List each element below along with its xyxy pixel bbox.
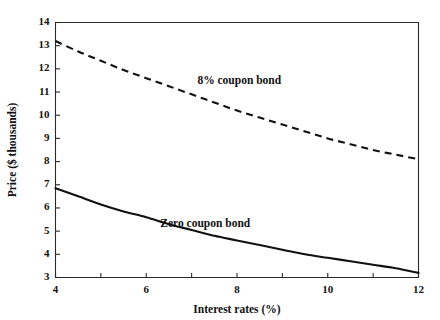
x-axis-title: Interest rates (%) <box>193 303 280 316</box>
series-label-8-coupon-bond: 8% coupon bond <box>197 74 281 87</box>
y-tick-label: 12 <box>39 61 51 73</box>
y-axis-title: Price ($ thousands) <box>6 103 19 198</box>
y-tick-label: 13 <box>39 38 51 50</box>
y-tick-label: 9 <box>44 131 50 143</box>
bond-price-chart: 34567891011121314 4681012 8% coupon bond… <box>0 0 440 320</box>
x-tick-label: 8 <box>234 283 240 295</box>
y-tick-label: 8 <box>44 154 50 166</box>
y-tick-label: 11 <box>39 85 49 97</box>
series-line-zero-coupon-bond <box>56 188 419 273</box>
y-tick-label: 7 <box>44 177 50 189</box>
y-tick-label: 6 <box>44 200 50 212</box>
axis-frame <box>56 23 419 278</box>
y-tick-label: 4 <box>44 247 50 259</box>
x-tick-label: 12 <box>413 283 425 295</box>
x-axis-ticks: 4681012 <box>53 273 425 295</box>
series-label-zero-coupon-bond: Zero coupon bond <box>160 217 251 230</box>
y-tick-label: 5 <box>44 224 50 236</box>
y-tick-label: 10 <box>39 108 51 120</box>
series-line-8-coupon-bond <box>56 41 419 159</box>
y-axis-ticks: 34567891011121314 <box>39 15 61 282</box>
y-tick-label: 14 <box>39 15 51 27</box>
x-tick-label: 4 <box>53 283 59 295</box>
plot-frame <box>56 23 419 278</box>
chart-canvas: 34567891011121314 4681012 8% coupon bond… <box>0 0 440 320</box>
y-tick-label: 3 <box>44 270 50 282</box>
series-annotations: 8% coupon bondZero coupon bond <box>160 74 281 230</box>
x-tick-label: 6 <box>144 283 150 295</box>
x-tick-label: 10 <box>322 283 334 295</box>
